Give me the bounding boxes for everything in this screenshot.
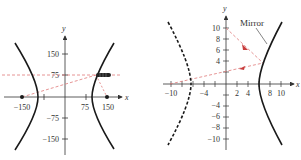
left-y-tick-label: −75 xyxy=(46,114,59,123)
right-x-tick-label: 2 xyxy=(235,89,239,98)
left-reflected-ray xyxy=(96,75,107,97)
ray-arrowhead-icon xyxy=(242,44,248,50)
mirror-label: Mirror xyxy=(240,18,264,28)
left-hyperbola-left-branch xyxy=(15,43,38,150)
right-y-tick-label: 10 xyxy=(212,24,220,33)
left-x-axis-label: x xyxy=(124,93,129,102)
right-x-tick-label: −10 xyxy=(165,89,178,98)
mirror-leader-line xyxy=(256,28,267,44)
left-y-tick-label: −150 xyxy=(42,135,59,144)
left-focus-point xyxy=(20,95,24,99)
right-x-tick-label: 4 xyxy=(246,89,250,98)
right-focus-point xyxy=(105,95,109,99)
right-graph: x y −10 −4 2 4 8 10 xyxy=(163,4,300,150)
left-x-tick-label: −150 xyxy=(14,103,31,112)
right-y-tick-label: −10 xyxy=(207,135,220,144)
right-reflected-ray xyxy=(170,63,263,84)
right-x-tick-label: 8 xyxy=(268,89,272,98)
right-y-tick-label: 8 xyxy=(216,35,220,44)
left-graph: x y 150 75 −75 −150 −150 75 150 xyxy=(2,24,129,155)
right-y-axis-label: y xyxy=(222,4,227,13)
left-hyperbola-right-branch xyxy=(92,43,114,149)
left-y-axis-label: y xyxy=(61,24,66,33)
mirror-hyperbola-branch xyxy=(259,22,282,145)
right-x-tick-label: 10 xyxy=(277,89,285,98)
right-x-axis-label: x xyxy=(295,80,300,89)
right-y-tick-label: 4 xyxy=(216,57,220,66)
left-y-tick-label: 150 xyxy=(47,50,59,59)
left-y-tick-label: 75 xyxy=(51,71,59,80)
right-y-tick-label: −6 xyxy=(211,112,220,121)
flashlight-icon xyxy=(96,73,111,77)
right-incoming-ray-top xyxy=(226,28,263,63)
hyperbola-diagrams: x y 150 75 −75 −150 −150 75 150 xyxy=(0,0,301,160)
right-y-tick-label: 6 xyxy=(216,46,220,55)
left-x-tick-label: 150 xyxy=(102,103,114,112)
right-x-tick-label: −4 xyxy=(200,89,209,98)
right-y-tick-label: −8 xyxy=(211,123,220,132)
right-y-tick-label: −4 xyxy=(211,101,220,110)
left-x-tick-label: 75 xyxy=(81,103,89,112)
